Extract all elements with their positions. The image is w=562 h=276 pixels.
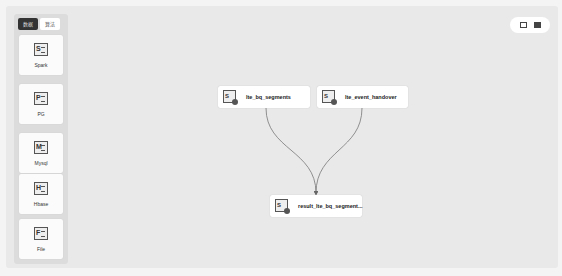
node-result[interactable]: S result_lte_bq_segment...	[270, 195, 362, 217]
node-lte-bq-segments[interactable]: S lte_bq_segments	[218, 86, 310, 108]
edge-n2-n3	[316, 108, 362, 193]
node-label: lte_bq_segments	[246, 86, 291, 108]
status-badge	[331, 99, 337, 105]
node-label: lte_event_handover	[345, 86, 397, 108]
edge-n1-n3	[266, 108, 316, 193]
node-lte-event-handover[interactable]: S lte_event_handover	[317, 86, 408, 108]
status-badge	[284, 208, 290, 214]
status-badge	[232, 99, 238, 105]
node-label: result_lte_bq_segment...	[298, 195, 363, 217]
edges-layer	[0, 0, 562, 276]
